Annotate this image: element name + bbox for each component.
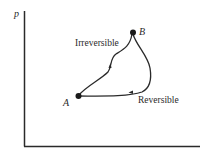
y-axis-label: p (13, 8, 19, 19)
state-b-label: B (139, 26, 145, 37)
state-b-point (130, 30, 136, 36)
irreversible-label: Irreversible (75, 38, 119, 48)
state-a-label: A (62, 97, 70, 108)
reversible-arrow-icon (129, 91, 134, 95)
pv-diagram: p A B Irreversible Reversible (0, 0, 203, 156)
reversible-label: Reversible (138, 95, 179, 105)
state-a-point (76, 93, 82, 99)
